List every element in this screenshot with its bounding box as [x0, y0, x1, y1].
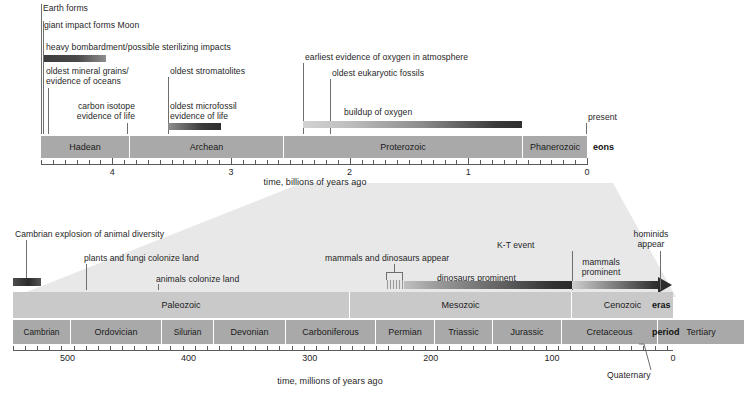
era-label-mesozoic: Mesozoic	[441, 300, 479, 310]
upper-axis-label: time, billions of years ago	[180, 177, 450, 187]
eons-row: Hadean Archean Proterozoic Phanerozoic	[41, 136, 587, 158]
upper-axis-tick-label: 1	[448, 167, 488, 177]
period-label-devonian: Devonian	[230, 327, 268, 337]
leader-line-cambrian-explosion	[26, 240, 27, 279]
period-block-permian[interactable]: Permian	[376, 320, 435, 344]
lower-axis-minor-tick	[401, 346, 402, 351]
event-label-oldest-eukaryotic: oldest eukaryotic fossils	[332, 68, 424, 78]
eon-block-phanerozoic[interactable]: Phanerozoic	[523, 136, 587, 158]
lower-axis-minor-tick	[667, 346, 668, 351]
lower-axis-label: time, millions of years ago	[165, 376, 495, 386]
upper-axis-major-tick	[350, 158, 351, 165]
lower-axis-minor-tick	[631, 346, 632, 351]
lower-axis-minor-tick	[328, 346, 329, 351]
lower-axis-minor-tick	[570, 346, 571, 351]
period-block-carboniferous[interactable]: Carboniferous	[286, 320, 376, 344]
leader-line-animals-land	[158, 284, 159, 290]
eon-label-phanerozoic: Phanerozoic	[530, 142, 580, 152]
era-label-paleozoic: Paleozoic	[161, 300, 200, 310]
upper-axis-minor-tick	[385, 160, 386, 165]
upper-axis-minor-tick	[207, 160, 208, 165]
upper-axis-minor-tick	[278, 160, 279, 165]
upper-axis-minor-tick	[195, 160, 196, 165]
lower-axis: 5004003002001000	[13, 344, 673, 368]
mammals-prominent-line1: mammals	[582, 257, 620, 267]
upper-axis-minor-tick	[456, 160, 457, 165]
event-label-oldest-microfossil: oldest microfossilevidence of life	[170, 101, 237, 122]
upper-axis-minor-tick	[433, 160, 434, 165]
upper-axis-minor-tick	[160, 160, 161, 165]
upper-axis-minor-tick	[421, 160, 422, 165]
hatch-mammals-dinos	[386, 280, 404, 289]
lower-axis-tick-label: 400	[169, 353, 209, 363]
period-block-ordovician[interactable]: Ordovician	[71, 320, 162, 344]
eon-label-proterozoic: Proterozoic	[380, 142, 426, 152]
lower-axis-minor-tick	[364, 346, 365, 351]
upper-axis-minor-tick	[41, 160, 42, 165]
event-label-kt-event: K-T event	[497, 240, 535, 250]
upper-axis-minor-tick	[255, 160, 256, 165]
eon-block-proterozoic[interactable]: Proterozoic	[284, 136, 523, 158]
upper-axis-minor-tick	[528, 160, 529, 165]
lower-axis-minor-tick	[207, 346, 208, 351]
upper-axis-minor-tick	[373, 160, 374, 165]
upper-axis-minor-tick	[504, 160, 505, 165]
upper-axis-minor-tick	[267, 160, 268, 165]
era-block-paleozoic[interactable]: Paleozoic	[13, 292, 350, 318]
era-block-mesozoic[interactable]: Mesozoic	[350, 292, 572, 318]
leader-line-oldest-mineral-grains	[48, 88, 49, 134]
lower-axis-tick-label: 0	[653, 353, 693, 363]
lower-axis-minor-tick	[388, 346, 389, 351]
upper-axis-minor-tick	[516, 160, 517, 165]
period-label-ordovician: Ordovician	[94, 327, 137, 337]
event-bar-dinosaurs-prominent	[404, 281, 572, 289]
lower-axis-minor-tick	[255, 346, 256, 351]
lower-axis-minor-tick	[473, 346, 474, 351]
periods-row: Cambrian Ordovician Silurian Devonian Ca…	[13, 320, 673, 344]
period-label-permian: Permian	[388, 327, 422, 337]
period-block-cambrian[interactable]: Cambrian	[13, 320, 71, 344]
lower-axis-line	[13, 350, 673, 351]
upper-axis-minor-tick	[563, 160, 564, 165]
lower-axis-minor-tick	[25, 346, 26, 351]
lower-axis-minor-tick	[582, 346, 583, 351]
upper-axis-minor-tick	[492, 160, 493, 165]
leader-line-carbon-isotope	[127, 123, 128, 134]
lower-axis-minor-tick	[49, 346, 50, 351]
row-tag-eras: eras	[652, 300, 671, 310]
period-block-devonian[interactable]: Devonian	[214, 320, 286, 344]
lower-axis-minor-tick	[146, 346, 147, 351]
lower-axis-minor-tick	[619, 346, 620, 351]
event-label-oldest-mineral-grains: oldest mineral grains/evidence of oceans	[46, 66, 129, 87]
lower-axis-minor-tick	[134, 346, 135, 351]
event-label-present: present	[588, 112, 617, 122]
upper-axis-minor-tick	[551, 160, 552, 165]
upper-axis-minor-tick	[326, 160, 327, 165]
period-block-triassic[interactable]: Triassic	[435, 320, 493, 344]
period-label-jurassic: Jurassic	[510, 327, 543, 337]
upper-axis-minor-tick	[183, 160, 184, 165]
upper-axis-minor-tick	[148, 160, 149, 165]
lower-axis-minor-tick	[655, 346, 656, 351]
eon-block-hadean[interactable]: Hadean	[41, 136, 130, 158]
eon-block-archean[interactable]: Archean	[130, 136, 284, 158]
event-bar-buildup-oxygen	[303, 121, 522, 128]
period-block-jurassic[interactable]: Jurassic	[493, 320, 562, 344]
lower-axis-minor-tick	[304, 346, 305, 351]
lower-axis-minor-tick	[606, 346, 607, 351]
period-block-silurian[interactable]: Silurian	[162, 320, 214, 344]
lower-axis-minor-tick	[122, 346, 123, 351]
lower-axis-minor-tick	[170, 346, 171, 351]
event-label-earliest-oxygen: earliest evidence of oxygen in atmospher…	[305, 52, 468, 62]
row-tag-eons: eons	[593, 142, 614, 152]
bracket-right-mammals-dinos	[402, 272, 403, 280]
lower-axis-minor-tick	[316, 346, 317, 351]
eon-label-hadean: Hadean	[69, 142, 101, 152]
lower-axis-minor-tick	[37, 346, 38, 351]
carbon-isotope-line1: carbon isotope	[78, 101, 135, 111]
event-label-heavy-bombardment: heavy bombardment/possible sterilizing i…	[46, 42, 231, 52]
leader-line-present	[586, 123, 587, 134]
oldest-microfossil-line1: oldest microfossil	[170, 101, 237, 111]
upper-axis-minor-tick	[124, 160, 125, 165]
